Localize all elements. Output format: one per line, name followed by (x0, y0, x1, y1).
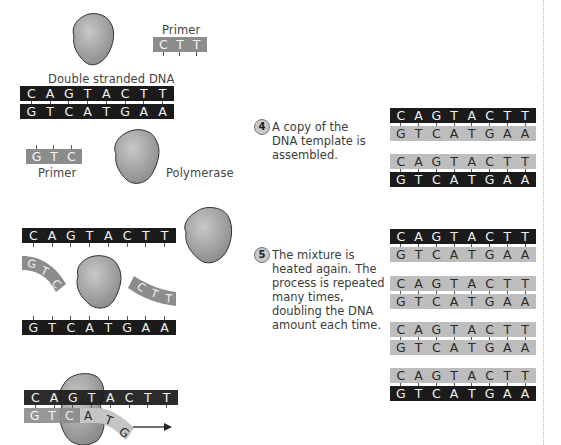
base: C (430, 386, 442, 401)
base: C (430, 172, 442, 187)
base: G (395, 386, 407, 401)
base: A (501, 340, 513, 355)
base: G (484, 247, 496, 262)
dna-copy-strand-bottom: GTCATGAA (390, 340, 536, 355)
dna-copy-strand-bottom: GTCATGAA (390, 294, 536, 309)
primer-gtc-extended: GTC (24, 408, 80, 423)
step-text-line: The mixture is (272, 248, 385, 262)
base: A (448, 340, 460, 355)
base: A (501, 172, 513, 187)
base: A (519, 294, 531, 309)
primer-ctt: C T T (153, 37, 207, 52)
base: A (413, 276, 425, 291)
step-text-line: DNA template is (272, 134, 366, 148)
step-text-line: heated again. The (272, 262, 385, 276)
base: T (448, 229, 460, 244)
base: G (395, 294, 407, 309)
base: T (466, 386, 478, 401)
base: T (413, 247, 425, 262)
base: A (466, 154, 478, 169)
step-text-line: doubling the DNA (272, 304, 385, 318)
dna-copy-strand-top: CAGTACTT (390, 276, 536, 291)
base: A (413, 229, 425, 244)
step-text-line: amount each time. (272, 318, 385, 332)
primer-label-top: Primer (162, 23, 200, 37)
base: T (466, 126, 478, 141)
dna-copy-strand-bottom: GTCATGAA (390, 126, 536, 141)
primer-gtc-curved: G T C (22, 254, 72, 294)
base: C (430, 294, 442, 309)
dna-copy-strand-top: CAGTACTT (390, 154, 536, 169)
dna-copy-strand-top: CAGTACTT (390, 229, 536, 244)
svg-text:T: T (164, 292, 173, 306)
dna-copy-strand-top: CAGTACTT (390, 108, 536, 123)
base: G (484, 340, 496, 355)
step-text-line: process is repeated (272, 276, 385, 290)
base: T (191, 37, 203, 52)
base: T (519, 322, 531, 337)
base: C (395, 154, 407, 169)
base: A (448, 294, 460, 309)
base: C (484, 322, 496, 337)
base: T (413, 294, 425, 309)
base: G (484, 386, 496, 401)
polymerase-blob-icon (72, 254, 124, 310)
polymerase-label: Polymerase (166, 166, 234, 180)
base: C (395, 108, 407, 123)
polymerase-blob-icon (182, 206, 234, 266)
circled-number-icon: 4 (254, 119, 270, 135)
base: A (501, 386, 513, 401)
dna-strand-bottom: GTCATGAA (22, 320, 176, 335)
base: A (448, 126, 460, 141)
base: A (519, 386, 531, 401)
arrow-right-icon (133, 422, 173, 432)
svg-text:G: G (27, 257, 37, 271)
base: A (448, 172, 460, 187)
base: A (448, 247, 460, 262)
base: T (501, 276, 513, 291)
base: T (466, 172, 478, 187)
base-bonds (22, 243, 176, 247)
dna-strand-top: CAGTACTT (20, 86, 174, 101)
dna-strand-bottom: GTCATGAA (20, 104, 174, 119)
double-stranded-label: Double stranded DNA (48, 72, 175, 86)
base: T (501, 322, 513, 337)
base: C (484, 108, 496, 123)
base: T (174, 37, 186, 52)
polymerase-blob-icon (70, 12, 116, 68)
base: A (501, 247, 513, 262)
base: A (466, 276, 478, 291)
dna-copy-strand-bottom: GTCATGAA (390, 247, 536, 262)
base: C (395, 276, 407, 291)
base: G (484, 126, 496, 141)
base: C (395, 322, 407, 337)
base: T (519, 108, 531, 123)
dna-copy-strand-top: CAGTACTT (390, 322, 536, 337)
dna-strand-top: CAGTACTT (24, 390, 178, 405)
primer-ctt-curved: C T T (128, 276, 178, 312)
base: G (395, 126, 407, 141)
base: A (413, 368, 425, 383)
base: C (395, 368, 407, 383)
base: G (430, 154, 442, 169)
base: T (501, 368, 513, 383)
dna-copy-strand-bottom: GTCATGAA (390, 386, 536, 401)
base: T (448, 154, 460, 169)
base: G (430, 276, 442, 291)
base: C (157, 37, 169, 52)
base: A (519, 172, 531, 187)
base: T (448, 276, 460, 291)
base: A (466, 322, 478, 337)
base: G (395, 172, 407, 187)
base: C (430, 340, 442, 355)
base: T (519, 229, 531, 244)
base: G (484, 172, 496, 187)
base: T (466, 247, 478, 262)
base: T (448, 108, 460, 123)
base: G (430, 322, 442, 337)
base: C (484, 276, 496, 291)
base: T (501, 108, 513, 123)
primer-label-bottom: Primer (38, 166, 76, 180)
base: C (484, 368, 496, 383)
base: T (519, 154, 531, 169)
